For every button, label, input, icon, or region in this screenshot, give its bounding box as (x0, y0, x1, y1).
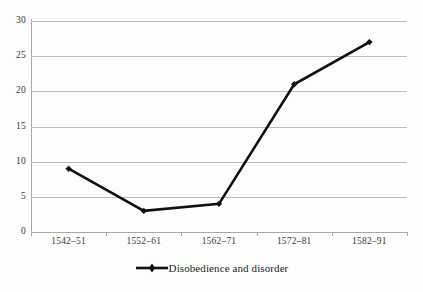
y-tick-label: 20 (0, 86, 26, 96)
y-tick-label: 5 (0, 192, 26, 202)
y-tick-label: 15 (0, 122, 26, 132)
y-tick-label: 0 (0, 227, 26, 237)
y-tick-label: 10 (0, 157, 26, 167)
line-chart-figure: 051015202530 1542–511552–611562–711572–8… (0, 0, 423, 292)
legend-marker-icon (135, 262, 169, 274)
legend-label: Disobedience and disorder (169, 262, 289, 274)
x-tick-label: 1572–81 (257, 236, 332, 247)
x-tick-label: 1542–51 (31, 236, 106, 247)
x-axis-labels: 1542–511552–611562–711572–811582–91 (31, 236, 407, 247)
x-tick-label: 1562–71 (181, 236, 256, 247)
series-disobedience-and-disorder (31, 21, 407, 232)
x-tick-label: 1582–91 (332, 236, 407, 247)
y-tick-label: 30 (0, 16, 26, 26)
series-line (69, 42, 370, 211)
x-tick-mark (407, 232, 408, 236)
y-tick-label: 25 (0, 51, 26, 61)
legend: Disobedience and disorder (0, 262, 423, 274)
gridline (31, 232, 407, 233)
plot-area (31, 21, 407, 232)
x-tick-label: 1552–61 (106, 236, 181, 247)
